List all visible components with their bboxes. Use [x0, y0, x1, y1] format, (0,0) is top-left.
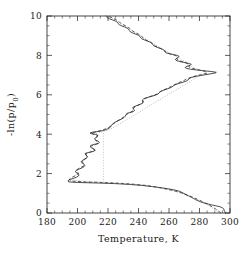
x-tick-label: 300: [221, 217, 239, 227]
x-axis-label-text: Temperature, K: [98, 233, 179, 244]
x-axis-title: Temperature, K: [98, 233, 179, 244]
temperature-profile-figure: 1802002202402602803000246810 Temperature…: [0, 0, 249, 259]
y-tick-label: 10: [30, 11, 42, 21]
x-tick-label: 240: [129, 217, 147, 227]
x-tick-label: 280: [190, 217, 208, 227]
y-tick-label: 2: [36, 169, 42, 179]
plot-canvas: 1802002202402602803000246810 Temperature…: [0, 0, 249, 259]
x-tick-label: 260: [160, 217, 178, 227]
x-tick-label: 180: [38, 217, 56, 227]
x-tick-label: 220: [99, 217, 117, 227]
x-tick-label: 200: [68, 217, 86, 227]
y-tick-label: 0: [36, 208, 42, 218]
y-tick-label: 4: [36, 130, 42, 140]
y-tick-label: 6: [36, 90, 42, 100]
y-tick-label: 8: [36, 51, 42, 61]
